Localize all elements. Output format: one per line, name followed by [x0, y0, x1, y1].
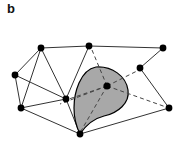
- node-bottom-right: [166, 105, 173, 112]
- node-right-middle: [137, 65, 144, 72]
- edge-top-right-to-right-middle: [140, 48, 163, 68]
- node-top-left: [38, 45, 45, 52]
- natural-neighbour-region: [74, 67, 128, 134]
- node-center-left: [63, 96, 70, 103]
- edge-top-left-to-top-middle: [41, 46, 89, 48]
- edge-top-left-to-left-upper: [15, 48, 41, 75]
- node-left-lower: [18, 105, 25, 112]
- edge-left-upper-to-left-lower: [15, 75, 21, 108]
- node-left-upper: [12, 72, 19, 79]
- node-bottom: [77, 131, 84, 138]
- edge-left-upper-to-center-left: [15, 75, 66, 99]
- node-top-right: [160, 45, 167, 52]
- node-top-middle: [86, 43, 93, 50]
- edge-top-left-to-center-left: [41, 48, 66, 99]
- figure-panel: b: [0, 0, 185, 155]
- node-interior: [103, 82, 110, 89]
- edge-top-left-to-left-lower: [21, 48, 41, 108]
- edge-top-middle-to-top-right: [89, 46, 163, 48]
- edge-left-lower-to-center-left: [21, 99, 66, 108]
- edge-right-middle-to-bottom-right: [140, 68, 169, 108]
- mesh-graph-diagram: [0, 0, 185, 155]
